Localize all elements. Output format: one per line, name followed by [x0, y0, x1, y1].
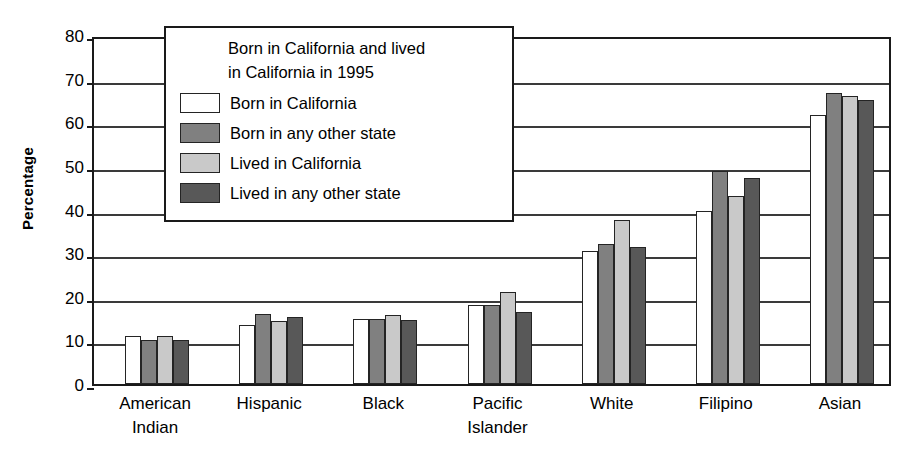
y-tick-mark — [87, 83, 94, 85]
bar — [598, 244, 614, 384]
bar — [385, 315, 401, 384]
legend-item: Born in any other state — [166, 118, 512, 148]
bar — [401, 320, 417, 384]
y-tick-label: 80 — [38, 28, 84, 45]
y-tick-mark — [87, 301, 94, 303]
bar — [125, 336, 141, 384]
bar — [810, 115, 826, 384]
legend-item: Lived in any other state — [166, 178, 512, 208]
y-tick-label: 60 — [38, 115, 84, 132]
y-tick-label: 70 — [38, 72, 84, 89]
bar — [157, 336, 173, 384]
y-tick-mark — [87, 388, 94, 390]
bar — [728, 196, 744, 384]
y-tick-label: 40 — [38, 203, 84, 220]
legend-swatch — [180, 183, 220, 203]
bar — [842, 96, 858, 384]
y-tick-mark — [87, 126, 94, 128]
bar — [744, 178, 760, 384]
bar — [484, 305, 500, 384]
legend-title: Born in California and livedin Californi… — [166, 36, 512, 84]
bar-chart: Percentage 01020304050607080 AmericanInd… — [0, 0, 918, 461]
y-tick-label: 20 — [38, 290, 84, 307]
y-tick-label: 10 — [38, 333, 84, 350]
bar — [516, 312, 532, 384]
bar — [255, 314, 271, 384]
y-axis-title: Percentage — [19, 129, 36, 249]
y-tick-label: 0 — [38, 377, 84, 394]
legend-item: Lived in California — [166, 148, 512, 178]
bar — [826, 93, 842, 384]
y-tick-mark — [87, 39, 94, 41]
bar — [614, 220, 630, 384]
bar — [858, 100, 874, 384]
bar — [369, 319, 385, 384]
legend-label: Born in California — [230, 93, 357, 113]
legend-label: Lived in California — [230, 153, 361, 173]
legend-label: Lived in any other state — [230, 183, 401, 203]
y-axis-tick-labels: 01020304050607080 — [38, 37, 84, 386]
y-tick-label: 30 — [38, 246, 84, 263]
bar — [696, 211, 712, 384]
legend-item: Born in California — [166, 88, 512, 118]
x-axis-tick-labels: AmericanIndianHispanicBlackPacificIsland… — [92, 392, 891, 458]
bar — [141, 340, 157, 384]
legend-swatch — [180, 93, 220, 113]
legend-swatch — [180, 153, 220, 173]
bar — [239, 325, 255, 384]
y-tick-mark — [87, 344, 94, 346]
bar — [468, 305, 484, 384]
bar — [271, 321, 287, 384]
y-tick-mark — [87, 170, 94, 172]
x-tick-label: Asian — [765, 392, 915, 416]
legend-swatch — [180, 123, 220, 143]
bar — [712, 171, 728, 384]
y-tick-mark — [87, 214, 94, 216]
bar — [173, 340, 189, 384]
bar-group — [582, 39, 646, 384]
legend-label: Born in any other state — [230, 123, 396, 143]
legend: Born in California and livedin Californi… — [164, 26, 514, 222]
bar — [353, 319, 369, 384]
bar — [582, 251, 598, 384]
legend-items: Born in CaliforniaBorn in any other stat… — [166, 88, 512, 208]
bar-group — [810, 39, 874, 384]
bar — [287, 317, 303, 384]
bar — [630, 247, 646, 384]
bar-group — [696, 39, 760, 384]
bar — [500, 292, 516, 384]
y-tick-mark — [87, 257, 94, 259]
y-tick-label: 50 — [38, 159, 84, 176]
